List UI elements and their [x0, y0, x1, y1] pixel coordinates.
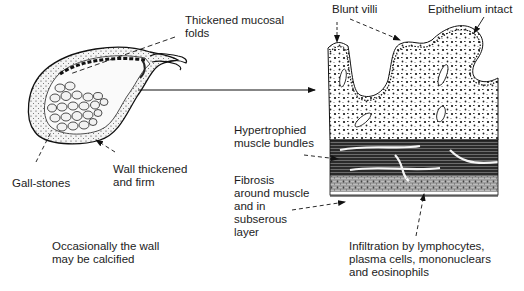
label-infiltration: Infiltration by lymphocytes, plasma cell… — [349, 240, 491, 279]
label-blunt-villi: Blunt villi — [332, 3, 377, 16]
wall-section-illustration — [328, 26, 498, 196]
label-hypertrophied-muscle: Hypertrophied muscle bundles — [234, 124, 314, 150]
leader-infiltration — [416, 194, 424, 236]
label-fibrosis: Fibrosis around muscle and in subserous … — [234, 174, 309, 239]
leader-epithelium — [474, 17, 484, 33]
gallbladder-illustration — [28, 47, 186, 143]
leader-blunt-villi-2 — [350, 19, 400, 40]
label-thickened-mucosal-folds: Thickened mucosal folds — [185, 14, 284, 40]
label-calcified: Occasionally the wall may be calcified — [52, 240, 159, 266]
label-epithelium-intact: Epithelium intact — [428, 3, 512, 16]
label-gall-stones: Gall-stones — [12, 177, 70, 190]
label-wall-thickened: Wall thickened and firm — [113, 163, 187, 189]
leader-wall — [96, 140, 115, 152]
